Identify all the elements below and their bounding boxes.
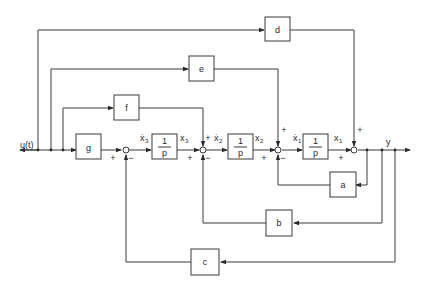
svg-text:+: + (205, 133, 210, 143)
svg-text:+: + (261, 153, 266, 163)
state-label-x1: x 1 (334, 133, 343, 144)
integrator-2-denominator: p (238, 148, 243, 158)
svg-text:−: − (205, 153, 210, 163)
block-c: c (191, 249, 219, 275)
svg-text:+: + (281, 125, 286, 135)
block-b: b (266, 210, 292, 236)
svg-text:3: 3 (185, 138, 189, 144)
block-d-label: d (275, 25, 280, 35)
integrator-3-numerator: 1 (313, 136, 318, 146)
block-c-label: c (203, 257, 208, 267)
block-a: a (330, 172, 356, 197)
svg-text:−: − (280, 153, 285, 163)
input-label: u(t) (20, 140, 34, 150)
svg-text:3: 3 (145, 138, 149, 144)
svg-text:2: 2 (219, 138, 223, 144)
block-e-label: e (199, 64, 204, 74)
summing-junction-4 (351, 147, 357, 153)
svg-text:+: + (338, 153, 343, 163)
svg-text:1: 1 (298, 138, 302, 144)
state-label-x2-dot: ẋ 2 (214, 133, 223, 144)
feedforward-d-path (38, 30, 354, 150)
svg-text:+: + (110, 153, 115, 163)
block-d: d (265, 17, 290, 41)
svg-text:2: 2 (260, 138, 264, 144)
state-label-x1-dot: ẋ 1 (293, 133, 302, 144)
state-label-x2: x 2 (255, 133, 264, 144)
integrator-2: 1 p (228, 134, 253, 159)
block-g-label: g (86, 143, 91, 153)
state-label-x3-dot: ẋ 3 (140, 133, 149, 144)
block-g: g (76, 134, 101, 159)
integrator-2-numerator: 1 (238, 136, 243, 146)
svg-text:1: 1 (339, 138, 343, 144)
block-e: e (189, 56, 214, 81)
block-diagram: g f e d a b c 1 p 1 p 1 p (0, 0, 425, 292)
block-a-label: a (340, 180, 345, 190)
integrator-3-denominator: p (313, 148, 318, 158)
svg-text:−: − (128, 153, 133, 163)
block-b-label: b (276, 218, 281, 228)
diagram-canvas: g f e d a b c 1 p 1 p 1 p (0, 0, 425, 292)
svg-text:+: + (187, 153, 192, 163)
state-label-x3: x 3 (180, 133, 189, 144)
block-f: f (114, 95, 139, 120)
integrator-1: 1 p (152, 134, 177, 159)
integrator-1-denominator: p (162, 148, 167, 158)
svg-text:+: + (357, 125, 362, 135)
integrator-1-numerator: 1 (162, 136, 167, 146)
output-label: y (386, 137, 391, 147)
integrator-3: 1 p (303, 134, 328, 159)
feedback-c-path (126, 150, 395, 262)
